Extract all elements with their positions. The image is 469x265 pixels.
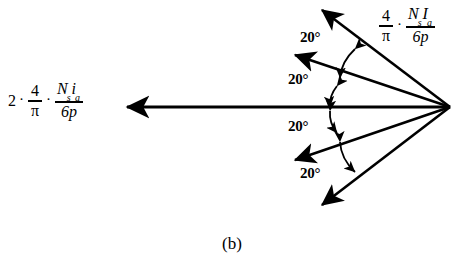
angle-label-3: 20° <box>288 118 308 135</box>
resultant-coefficient: 2 <box>8 92 16 110</box>
resultant-dot-2: · <box>43 91 54 108</box>
single-denominator-6p: 6p <box>410 28 430 45</box>
single-fraction-four-over-pi: 4 π <box>378 8 394 45</box>
resultant-vector-formula: 2 · 4 π · Nsia 6p <box>8 81 84 121</box>
resultant-dot-1: · <box>16 91 27 108</box>
single-denominator-pi: π <box>380 27 392 44</box>
angle-arc-2 <box>330 86 337 107</box>
resultant-denominator-pi: π <box>29 102 41 119</box>
angle-arc-4 <box>340 142 355 172</box>
vector-minus-40-degrees <box>322 107 450 205</box>
resultant-numerator-4: 4 <box>29 83 41 100</box>
vector-minus-20-degrees <box>295 107 450 160</box>
symbol-I-subscript: a <box>427 17 432 28</box>
single-fraction-ns-ia-over-6p: NsIa 6p <box>405 6 436 46</box>
single-vector-formula: 4 π · NsIa 6p <box>378 6 436 46</box>
resultant-numerator-ns-ia: Nsia <box>55 81 83 101</box>
single-numerator-4: 4 <box>380 8 392 25</box>
figure-caption: (b) <box>222 234 242 254</box>
symbol-N-subscript: s <box>418 17 422 28</box>
angle-label-1: 20° <box>300 29 320 46</box>
single-numerator-ns-ia: NsIa <box>406 6 435 26</box>
phasor-diagram-figure: 20° 20° 20° 20° 2 · 4 π · Nsia 6p 4 π · … <box>0 0 469 265</box>
angle-label-4: 20° <box>300 165 320 182</box>
resultant-fraction-ns-ia-over-6p: Nsia 6p <box>54 81 84 121</box>
resultant-denominator-6p: 6p <box>59 103 79 120</box>
angle-label-2: 20° <box>288 71 308 88</box>
vector-plus-20-degrees <box>295 55 450 107</box>
angle-arc-3 <box>330 111 337 133</box>
resultant-fraction-four-over-pi: 4 π <box>27 83 43 120</box>
single-dot-1: · <box>394 16 405 33</box>
symbol-i-subscript: a <box>75 92 80 103</box>
symbol-N-subscript: s <box>67 92 71 103</box>
